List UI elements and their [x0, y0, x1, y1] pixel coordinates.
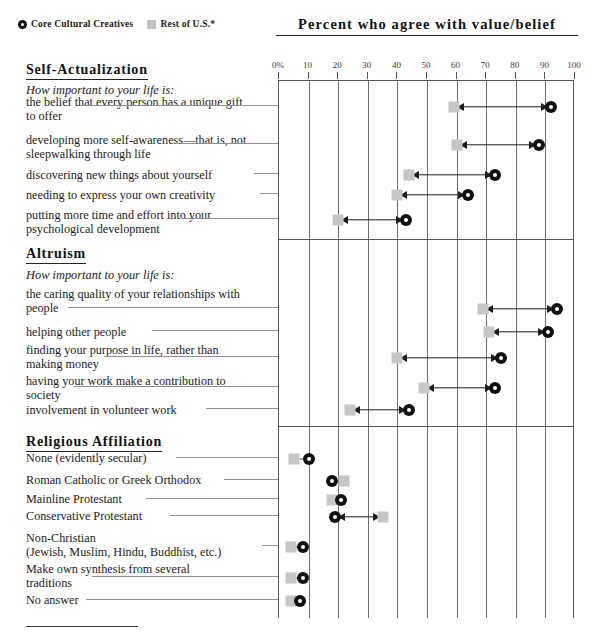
square-marker-icon — [451, 140, 462, 151]
row-label-line: making money — [26, 358, 272, 372]
gridline — [427, 81, 428, 618]
circle-marker-icon — [403, 404, 415, 416]
row-label-line: traditions — [26, 577, 272, 591]
circle-marker-icon — [551, 303, 563, 315]
gridline — [338, 81, 339, 618]
axis-tick-label: 100 — [567, 60, 581, 70]
leader-line — [176, 457, 278, 458]
row-label: Mainline Protestant — [26, 493, 272, 507]
row-label-line: Make own synthesis from several — [26, 563, 272, 577]
row-label: No answer — [26, 594, 272, 608]
chart-page: Core Cultural CreativesRest of U.S.* Per… — [0, 0, 597, 641]
row-label-line: people — [26, 302, 272, 316]
row-label-line: involvement in volunteer work — [26, 404, 272, 418]
circle-marker-icon — [495, 352, 507, 364]
row-label: helping other people — [26, 326, 272, 340]
chart-legend: Core Cultural CreativesRest of U.S.* — [18, 20, 215, 30]
square-marker-icon — [392, 190, 403, 201]
row-label: having your work make a contribution tos… — [26, 375, 272, 402]
plot-area — [278, 80, 574, 618]
axis-tick-label: 80 — [510, 60, 519, 70]
axis-tick-mark — [426, 72, 427, 79]
row-label-line: psychological development — [26, 223, 272, 237]
leader-line — [182, 143, 278, 144]
row-label: None (evidently secular) — [26, 452, 272, 466]
axis-tick-label: 90 — [540, 60, 549, 70]
leader-line — [224, 479, 278, 480]
row-label-line: helping other people — [26, 326, 272, 340]
axis-tick-mark — [456, 72, 457, 79]
row-label: finding your purpose in life, rather tha… — [26, 344, 272, 371]
circle-marker-icon — [489, 382, 501, 394]
square-marker-icon — [147, 20, 156, 29]
legend-label: Core Cultural Creatives — [31, 20, 133, 30]
gridline — [516, 81, 517, 618]
leader-line — [262, 545, 278, 546]
row-label-line: sleepwalking through life — [26, 148, 272, 162]
gridline — [486, 81, 487, 618]
gridline — [309, 81, 310, 618]
axis-tick-label: 40 — [392, 60, 401, 70]
row-label: the caring quality of your relationships… — [26, 288, 272, 315]
leader-line — [68, 307, 278, 308]
row-label-line: Conservative Protestant — [26, 510, 272, 524]
axis-tick-mark — [574, 72, 575, 79]
square-marker-icon — [377, 512, 388, 523]
square-marker-icon — [285, 573, 296, 584]
row-label: Non-Christian(Jewish, Muslim, Hindu, Bud… — [26, 532, 272, 559]
gridline — [368, 81, 369, 618]
row-label: Roman Catholic or Greek Orthodox — [26, 474, 272, 488]
leader-line — [80, 105, 278, 106]
gridline — [457, 81, 458, 618]
square-marker-icon — [478, 304, 489, 315]
row-label-line: (Jewish, Muslim, Hindu, Buddhist, etc.) — [26, 546, 272, 560]
section-separator — [279, 426, 573, 427]
legend-item-0: Core Cultural Creatives — [18, 20, 133, 30]
row-label: Conservative Protestant — [26, 510, 272, 524]
circle-marker-icon — [297, 572, 309, 584]
square-marker-icon — [392, 353, 403, 364]
row-label-line: Mainline Protestant — [26, 493, 272, 507]
axis-tick-mark — [544, 72, 545, 79]
row-label-line: No answer — [26, 594, 272, 608]
axis-tick-label: 20 — [333, 60, 342, 70]
axis-tick-label: 60 — [451, 60, 460, 70]
square-marker-icon — [419, 383, 430, 394]
row-label-line: to offer — [26, 110, 272, 124]
axis-tick-mark — [367, 72, 368, 79]
square-marker-icon — [404, 170, 415, 181]
circle-marker-icon — [462, 189, 474, 201]
row-label-line: the belief that every person has a uniqu… — [26, 96, 272, 110]
row-label-line: discovering new things about yourself — [26, 169, 272, 183]
square-marker-icon — [345, 405, 356, 416]
circle-marker-icon — [533, 139, 545, 151]
axis-tick-mark — [337, 72, 338, 79]
circle-marker-icon — [542, 326, 554, 338]
leader-line — [206, 408, 278, 409]
legend-item-1: Rest of U.S.* — [147, 20, 215, 30]
section-heading: Religious Affiliation — [26, 434, 162, 452]
axis-tick-mark — [515, 72, 516, 79]
leader-line — [170, 515, 278, 516]
circle-marker-icon — [489, 169, 501, 181]
axis-tick-label: 70 — [481, 60, 490, 70]
row-label: needing to express your own creativity — [26, 189, 272, 203]
section-heading: Altruism — [26, 246, 86, 264]
circle-marker-icon — [294, 595, 306, 607]
value-connector — [457, 144, 540, 145]
value-connector — [409, 174, 495, 175]
axis-tick-label: 0% — [272, 60, 284, 70]
circle-marker-icon — [326, 475, 338, 487]
footnote-rule — [26, 626, 138, 627]
value-connector — [397, 357, 501, 358]
axis-tick-mark — [485, 72, 486, 79]
axis-tick-mark — [278, 72, 279, 79]
row-label-line: Roman Catholic or Greek Orthodox — [26, 474, 272, 488]
leader-line — [260, 193, 278, 194]
row-label-line: developing more self-awareness—that is, … — [26, 134, 272, 148]
row-label: putting more time and effort into yourps… — [26, 209, 272, 236]
leader-line — [152, 330, 278, 331]
leader-line — [182, 218, 278, 219]
square-marker-icon — [285, 542, 296, 553]
circle-marker-icon — [303, 453, 315, 465]
